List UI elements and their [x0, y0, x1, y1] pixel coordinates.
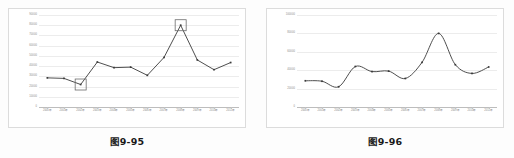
x-axis-tick-mark	[305, 107, 306, 109]
y-axis-tick-label: 40000	[29, 65, 37, 68]
x-axis-tick-label: 2001年	[60, 110, 69, 113]
x-axis-tick-mark	[131, 107, 132, 109]
data-point-marker	[388, 70, 390, 72]
x-axis-tick-mark	[472, 107, 473, 109]
x-axis-tick-label: 2007年	[418, 110, 427, 113]
series-layer	[297, 15, 497, 107]
data-point-marker	[113, 67, 115, 69]
plot-area-right: 0200004000060000800001000002000年2001年200…	[297, 15, 497, 107]
y-axis-tick-label: 80000	[29, 24, 37, 27]
y-axis-tick-label: 60000	[29, 44, 37, 47]
data-point-marker	[338, 86, 340, 88]
x-axis-tick-label: 2002年	[334, 110, 343, 113]
series-line	[305, 33, 488, 87]
x-axis-tick-label: 2008年	[434, 110, 443, 113]
x-axis-tick-mark	[81, 107, 82, 109]
data-point-marker	[471, 73, 473, 75]
data-point-marker	[454, 64, 456, 66]
x-axis-tick-mark	[439, 107, 440, 109]
x-axis-tick-label: 2000年	[43, 110, 52, 113]
data-point-marker	[304, 80, 306, 82]
figure-sheet: 0100002000030000400005000060000700008000…	[0, 0, 514, 158]
data-point-marker	[488, 66, 490, 68]
x-axis-tick-mark	[322, 107, 323, 109]
data-point-marker	[196, 59, 198, 61]
data-point-marker	[163, 57, 165, 59]
x-axis-tick-label: 2009年	[451, 110, 460, 113]
x-axis-tick-label: 2010年	[210, 110, 219, 113]
x-axis-tick-label: 2005年	[384, 110, 393, 113]
x-axis-tick-mark	[197, 107, 198, 109]
x-axis-line	[297, 107, 497, 108]
x-axis-tick-label: 2001年	[318, 110, 327, 113]
figure-caption-left: 图9-95	[8, 134, 246, 148]
y-axis-tick-label: 0	[35, 106, 37, 109]
data-point-marker	[96, 61, 98, 63]
x-axis-tick-label: 2003年	[93, 110, 102, 113]
x-axis-tick-mark	[405, 107, 406, 109]
y-axis-tick-label: 100000	[286, 14, 295, 17]
series-layer	[39, 15, 239, 107]
y-axis-tick-label: 70000	[29, 34, 37, 37]
figure-right: 0200004000060000800001000002000年2001年200…	[266, 8, 506, 158]
data-point-marker	[321, 80, 323, 82]
x-axis-tick-label: 2006年	[143, 110, 152, 113]
x-axis-tick-mark	[355, 107, 356, 109]
y-axis-tick-label: 20000	[287, 87, 295, 90]
x-axis-tick-mark	[181, 107, 182, 109]
x-axis-tick-mark	[231, 107, 232, 109]
figure-caption-right: 图9-96	[266, 134, 504, 148]
x-axis-tick-label: 2006年	[401, 110, 410, 113]
y-axis-tick-label: 80000	[287, 32, 295, 35]
series-line	[47, 25, 230, 84]
y-axis-tick-label: 20000	[29, 85, 37, 88]
x-axis-tick-label: 2008年	[176, 110, 185, 113]
data-point-marker	[371, 71, 373, 73]
x-axis-tick-label: 2011年	[484, 110, 493, 113]
x-axis-tick-mark	[64, 107, 65, 109]
x-axis-tick-label: 2005年	[126, 110, 135, 113]
chart-frame-right: 0200004000060000800001000002000年2001年200…	[266, 8, 504, 128]
data-point-marker	[438, 33, 440, 35]
y-axis-tick-label: 30000	[29, 75, 37, 78]
x-axis-tick-mark	[389, 107, 390, 109]
y-axis-tick-label: 90000	[29, 14, 37, 17]
x-axis-tick-label: 2009年	[193, 110, 202, 113]
x-axis-tick-mark	[147, 107, 148, 109]
x-axis-tick-label: 2011年	[226, 110, 235, 113]
y-axis-tick-label: 10000	[29, 95, 37, 98]
y-axis-tick-label: 60000	[287, 51, 295, 54]
chart-frame-left: 0100002000030000400005000060000700008000…	[8, 8, 246, 128]
x-axis-tick-mark	[97, 107, 98, 109]
x-axis-tick-mark	[114, 107, 115, 109]
x-axis-tick-label: 2010年	[468, 110, 477, 113]
y-axis-tick-label: 50000	[29, 55, 37, 58]
data-point-marker	[46, 77, 48, 79]
x-axis-tick-label: 2004年	[110, 110, 119, 113]
x-axis-tick-label: 2007年	[160, 110, 169, 113]
x-axis-tick-mark	[164, 107, 165, 109]
x-axis-tick-label: 2002年	[76, 110, 85, 113]
data-point-marker	[354, 66, 356, 68]
data-point-marker	[421, 62, 423, 64]
x-axis-line	[39, 107, 239, 108]
x-axis-tick-mark	[455, 107, 456, 109]
x-axis-tick-mark	[372, 107, 373, 109]
data-point-marker	[63, 78, 65, 80]
x-axis-tick-mark	[214, 107, 215, 109]
data-point-marker	[230, 62, 232, 64]
figure-left: 0100002000030000400005000060000700008000…	[8, 8, 248, 158]
x-axis-tick-label: 2003年	[351, 110, 360, 113]
data-point-marker	[80, 84, 82, 86]
y-axis-tick-label: 40000	[287, 69, 295, 72]
data-point-marker	[180, 24, 182, 26]
plot-area-left: 0100002000030000400005000060000700008000…	[39, 15, 239, 107]
x-axis-tick-label: 2000年	[301, 110, 310, 113]
x-axis-tick-label: 2004年	[368, 110, 377, 113]
x-axis-tick-mark	[339, 107, 340, 109]
data-point-marker	[130, 66, 132, 68]
data-point-marker	[146, 74, 148, 76]
x-axis-tick-mark	[47, 107, 48, 109]
data-point-marker	[213, 69, 215, 71]
x-axis-tick-mark	[489, 107, 490, 109]
